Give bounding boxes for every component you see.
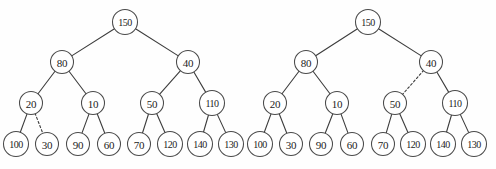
tree-node[interactable]: 150 xyxy=(113,10,138,35)
tree-edge-solid xyxy=(69,71,87,94)
tree-node[interactable]: 130 xyxy=(219,132,244,157)
tree-node[interactable]: 30 xyxy=(36,133,59,156)
tree-node[interactable]: 70 xyxy=(372,133,395,156)
node-label: 120 xyxy=(406,139,420,150)
tree-node[interactable]: 70 xyxy=(128,133,151,156)
node-label: 140 xyxy=(436,139,450,150)
tree-edge-solid xyxy=(82,113,89,133)
tree-node[interactable]: 20 xyxy=(264,92,287,115)
node-label: 110 xyxy=(205,98,219,109)
node-label: 80 xyxy=(301,57,312,69)
node-label: 100 xyxy=(9,139,23,150)
node-label: 90 xyxy=(73,139,84,151)
tree-node[interactable]: 100 xyxy=(248,132,273,157)
tree-edge-solid xyxy=(282,71,300,94)
nodes-layer: 1508040201050110100309060701201401301508… xyxy=(4,10,487,157)
tree-edge-solid xyxy=(194,71,206,92)
node-label: 10 xyxy=(332,98,343,110)
tree-edge-solid xyxy=(142,113,148,133)
tree-edge-solid xyxy=(279,113,287,134)
tree-node[interactable]: 140 xyxy=(188,132,213,157)
tree-node[interactable]: 60 xyxy=(98,133,121,156)
tree-node[interactable]: 10 xyxy=(326,92,349,115)
node-label: 40 xyxy=(426,57,437,69)
binary-trees-figure: 1508040201050110100309060701201401301508… xyxy=(0,0,496,169)
tree-node[interactable]: 110 xyxy=(443,91,468,116)
tree-edge-solid xyxy=(325,113,333,134)
tree-edge-solid xyxy=(20,113,27,132)
node-label: 80 xyxy=(57,57,68,69)
tree-edge-solid xyxy=(156,113,165,133)
tree-edge-solid xyxy=(399,113,408,133)
tree-node[interactable]: 120 xyxy=(158,132,183,157)
tree-edge-solid xyxy=(386,114,392,134)
node-label: 30 xyxy=(42,139,53,151)
node-label: 40 xyxy=(183,57,194,69)
tree-edge-solid xyxy=(460,114,469,133)
tree-edge-dashed xyxy=(402,70,423,94)
tree-node[interactable]: 40 xyxy=(420,51,443,74)
tree-edge-solid xyxy=(437,71,449,92)
tree-node[interactable]: 80 xyxy=(51,51,74,74)
tree-edge-solid xyxy=(264,113,271,132)
tree-node[interactable]: 140 xyxy=(431,132,456,157)
node-label: 90 xyxy=(316,139,327,151)
tree-node[interactable]: 90 xyxy=(310,133,333,156)
node-label: 70 xyxy=(134,139,145,151)
tree-node[interactable]: 100 xyxy=(4,132,29,157)
node-label: 70 xyxy=(378,139,389,151)
node-label: 100 xyxy=(253,139,267,150)
tree-edge-solid xyxy=(97,113,105,134)
node-label: 130 xyxy=(467,139,481,150)
node-label: 60 xyxy=(347,139,358,151)
node-label: 60 xyxy=(104,139,115,151)
left-tree-edges xyxy=(20,28,226,133)
node-label: 110 xyxy=(448,98,462,109)
right-tree-edges xyxy=(264,28,469,133)
node-label: 130 xyxy=(224,139,238,150)
tree-node[interactable]: 90 xyxy=(67,133,90,156)
tree-node[interactable]: 30 xyxy=(280,133,303,156)
tree-edge-solid xyxy=(203,115,208,133)
node-label: 50 xyxy=(390,98,401,110)
tree-edge-solid xyxy=(378,28,422,56)
tree-node[interactable]: 40 xyxy=(177,51,200,74)
tree-edge-solid xyxy=(446,115,451,133)
right-tree-nodes: 150804020105011010030906070120140130 xyxy=(248,10,487,157)
tree-edge-dashed xyxy=(35,113,43,134)
node-label: 20 xyxy=(26,98,37,110)
left-tree-nodes: 150804020105011010030906070120140130 xyxy=(4,10,244,157)
tree-node[interactable]: 20 xyxy=(20,92,43,115)
node-label: 10 xyxy=(88,98,99,110)
tree-node[interactable]: 130 xyxy=(462,132,487,157)
tree-edge-solid xyxy=(315,29,358,57)
tree-node[interactable]: 50 xyxy=(384,92,407,115)
edges-layer xyxy=(20,28,469,133)
tree-node[interactable]: 120 xyxy=(401,132,426,157)
tree-edge-solid xyxy=(159,70,180,94)
tree-edge-solid xyxy=(135,28,179,56)
node-label: 120 xyxy=(163,139,177,150)
tree-node[interactable]: 10 xyxy=(82,92,105,115)
node-label: 150 xyxy=(361,17,375,28)
node-label: 20 xyxy=(270,98,281,110)
tree-diagram-canvas: 1508040201050110100309060701201401301508… xyxy=(0,0,496,169)
node-label: 30 xyxy=(286,139,297,151)
tree-edge-solid xyxy=(341,113,348,133)
node-label: 50 xyxy=(147,98,158,110)
tree-edge-solid xyxy=(313,71,331,94)
tree-node[interactable]: 80 xyxy=(295,51,318,74)
tree-edge-solid xyxy=(217,114,226,133)
node-label: 140 xyxy=(193,139,207,150)
tree-edge-solid xyxy=(71,28,115,56)
tree-edge-solid xyxy=(38,71,56,94)
tree-node[interactable]: 110 xyxy=(200,91,225,116)
node-label: 150 xyxy=(118,17,132,28)
tree-node[interactable]: 150 xyxy=(356,10,381,35)
tree-node[interactable]: 50 xyxy=(141,92,164,115)
tree-node[interactable]: 60 xyxy=(341,133,364,156)
